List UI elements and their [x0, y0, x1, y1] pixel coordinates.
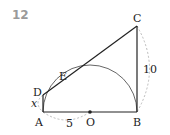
- label-bc-length: 10: [143, 63, 157, 76]
- label-ad-x: x: [31, 97, 38, 110]
- label-ao-length: 5: [66, 117, 73, 130]
- geometry-figure: C B A O D E 5 10 x: [0, 0, 170, 135]
- label-o: O: [86, 116, 95, 129]
- label-e: E: [59, 70, 67, 83]
- label-b: B: [133, 116, 141, 129]
- label-c: C: [133, 12, 141, 25]
- semicircle: [43, 65, 137, 112]
- segment-cd: [43, 26, 137, 95]
- point-o-dot: [88, 110, 92, 114]
- label-a: A: [34, 116, 44, 129]
